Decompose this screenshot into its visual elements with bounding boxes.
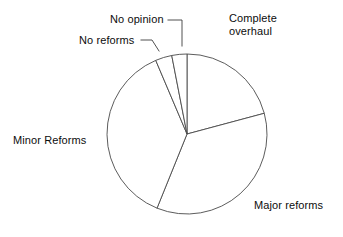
- pie-label-no-reforms: No reforms: [79, 34, 134, 47]
- leader-line-no-opinion: [168, 20, 182, 46]
- pie-label-minor-reforms: Minor Reforms: [13, 134, 86, 147]
- pie-chart: No opinion No reforms Complete overhaul …: [0, 0, 343, 237]
- pie-label-major-reforms: Major reforms: [254, 199, 323, 212]
- pie-label-no-opinion: No opinion: [110, 13, 164, 26]
- leader-line-no-reforms: [141, 40, 159, 51]
- pie-label-complete-overhaul: Complete overhaul: [229, 12, 277, 38]
